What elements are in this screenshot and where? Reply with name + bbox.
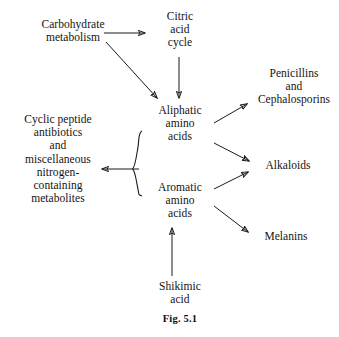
node-shikimic-acid: Shikimic acid (148, 280, 212, 306)
edge-aliphatic-to-alkaloids (214, 143, 249, 161)
amino-acid-group-brace (133, 131, 142, 196)
node-cyclic-peptide-antibiotics: Cyclic peptide antibiotics and miscellan… (6, 113, 110, 205)
node-aromatic-amino-acids: Aromatic amino acids (148, 181, 212, 221)
node-aliphatic-amino-acids: Aliphatic amino acids (148, 104, 212, 144)
figure-caption: Fig. 5.1 (140, 313, 220, 324)
edge-carbohydrate-to-aliphatic (106, 42, 157, 98)
edge-aromatic-to-melanins (214, 206, 248, 232)
node-melanins: Melanins (253, 230, 319, 243)
pathway-diagram: metabolism of amino acids (0, 0, 339, 337)
node-citric-acid-cycle: Citric acid cycle (152, 10, 208, 50)
node-carbohydrate-metabolism: Carbohydrate metabolism (23, 18, 123, 44)
edge-aliphatic-to-penicillins (214, 104, 247, 123)
node-alkaloids: Alkaloids (255, 159, 321, 172)
node-penicillins-cephalosporins: Penicillins and Cephalosporins (250, 67, 338, 107)
edge-aromatic-to-alkaloids (214, 172, 248, 189)
